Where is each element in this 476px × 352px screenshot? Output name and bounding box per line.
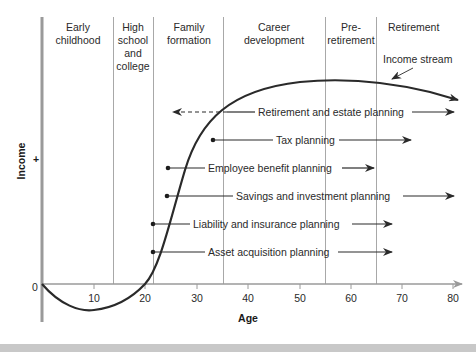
plan-liability-insurance: Liability and insurance planning bbox=[151, 218, 392, 230]
x-axis-title: Age bbox=[238, 312, 258, 324]
plan-label: Tax planning bbox=[276, 134, 335, 146]
stage-early-childhood-line2: childhood bbox=[56, 34, 101, 46]
tick-label-40: 40 bbox=[242, 292, 254, 304]
plan-tax: Tax planning bbox=[211, 134, 411, 146]
stage-family-formation-line2: formation bbox=[167, 34, 211, 46]
income-stream-pointer bbox=[392, 68, 413, 79]
stage-dividers bbox=[114, 17, 377, 284]
tick-label-30: 30 bbox=[191, 292, 203, 304]
tick-label-60: 60 bbox=[345, 292, 357, 304]
stage-high-school-line1: High bbox=[122, 21, 144, 33]
plan-label: Savings and investment planning bbox=[236, 190, 390, 202]
planning-rows: Retirement and estate planning Tax plann… bbox=[151, 106, 454, 258]
y-axis-title: Income bbox=[15, 142, 27, 179]
tick-label-80: 80 bbox=[447, 292, 459, 304]
plan-employee-benefit: Employee benefit planning bbox=[166, 162, 374, 174]
plan-asset-acquisition: Asset acquisition planning bbox=[151, 246, 392, 258]
plan-label: Liability and insurance planning bbox=[193, 218, 340, 230]
plan-label: Retirement and estate planning bbox=[258, 106, 404, 118]
tick-label-20: 20 bbox=[139, 292, 151, 304]
plan-label: Asset acquisition planning bbox=[208, 246, 330, 258]
life-cycle-diagram: Early childhood High school and college … bbox=[0, 0, 476, 352]
origin-label: 0 bbox=[32, 281, 38, 293]
tick-label-50: 50 bbox=[294, 292, 306, 304]
plan-label: Employee benefit planning bbox=[208, 162, 332, 174]
stage-career-development-line1: Career bbox=[258, 21, 291, 33]
income-stream-label: Income stream bbox=[383, 53, 453, 65]
stage-pre-retirement-line1: Pre- bbox=[341, 21, 361, 33]
stage-pre-retirement-line2: retirement bbox=[327, 34, 374, 46]
stage-early-childhood-line1: Early bbox=[66, 21, 91, 33]
stage-high-school-line4: college bbox=[116, 60, 149, 72]
plan-savings-investment: Savings and investment planning bbox=[165, 190, 454, 202]
tick-label-70: 70 bbox=[396, 292, 408, 304]
stage-retirement-label: Retirement bbox=[388, 21, 439, 33]
stage-family-formation-line1: Family bbox=[174, 21, 206, 33]
stage-high-school-line3: and bbox=[124, 47, 142, 59]
footer-bar bbox=[0, 344, 476, 352]
stage-career-development-line2: development bbox=[244, 34, 304, 46]
x-axis-ticks bbox=[94, 284, 453, 289]
tick-label-10: 10 bbox=[88, 292, 100, 304]
stage-high-school-line2: school bbox=[118, 34, 148, 46]
y-axis-plus-sign: + bbox=[33, 153, 39, 165]
